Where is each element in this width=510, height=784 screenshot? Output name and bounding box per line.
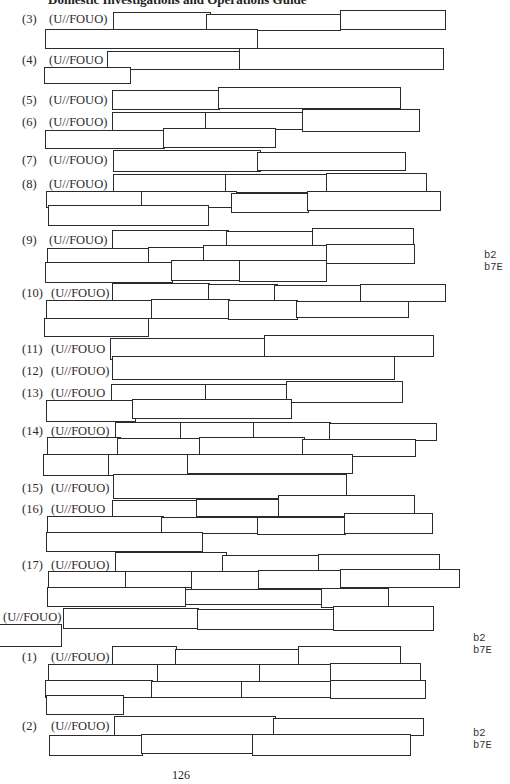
redaction-box [257, 152, 406, 171]
redaction-box [191, 571, 259, 591]
redaction-box [151, 299, 230, 319]
page-number: 126 [172, 768, 190, 783]
redaction-box [151, 681, 243, 698]
classification-marking: (U//FOUO) [49, 93, 107, 108]
item-number: (5) [22, 93, 37, 108]
classification-marking: (U//FOUO) [49, 233, 107, 248]
redaction-box [239, 260, 327, 282]
redaction-box [286, 381, 403, 403]
redaction-box [0, 624, 62, 647]
classification-marking: (U//FOUO) [49, 177, 107, 192]
redaction-box [113, 150, 261, 172]
redaction-box [333, 606, 434, 631]
redaction-box [47, 587, 186, 607]
redaction-box [259, 664, 332, 682]
redaction-box [340, 10, 446, 30]
redaction-box [114, 716, 276, 736]
item-number: (4) [22, 53, 37, 68]
classification-marking: (U//FOUO) [51, 286, 109, 301]
redaction-box [171, 260, 241, 281]
redaction-box [45, 130, 165, 149]
classification-marking: (U//FOUO) [51, 719, 109, 734]
item-number: (9) [22, 233, 37, 248]
item-number: (15) [22, 481, 43, 496]
redaction-box [45, 29, 258, 49]
redaction-box [48, 205, 209, 226]
redaction-box [141, 734, 254, 754]
exemption-code: b2 b7E [473, 727, 492, 751]
item-number: (2) [22, 719, 37, 734]
redaction-box [46, 400, 136, 422]
classification-marking: (U//FOUO [51, 342, 105, 357]
redaction-box [296, 301, 409, 318]
item-number: (11) [22, 342, 42, 357]
redaction-box [46, 695, 124, 715]
classification-marking: (U//FOUO) [49, 115, 107, 130]
exemption-code: b2 b7E [484, 249, 503, 273]
redaction-box [330, 680, 426, 699]
item-number: (1) [22, 650, 37, 665]
redaction-box [340, 569, 460, 588]
redaction-box [63, 608, 199, 629]
item-number: (17) [22, 558, 43, 573]
redaction-box [252, 734, 411, 756]
classification-marking: (U//FOUO) [51, 481, 109, 496]
item-number: (12) [22, 364, 43, 379]
document-header: Domestic Investigations and Operations G… [48, 0, 307, 8]
redaction-box [112, 90, 220, 110]
classification-marking: (U//FOUO) [49, 12, 107, 27]
redaction-box [125, 571, 193, 588]
redaction-box [187, 454, 353, 474]
redaction-box [44, 318, 149, 337]
redaction-box [185, 589, 322, 605]
redaction-box [45, 262, 173, 283]
redaction-box [163, 128, 276, 148]
redaction-box [46, 300, 153, 319]
classification-marking: (U//FOUO [49, 53, 103, 68]
classification-marking: (U//FOUO) [3, 610, 61, 625]
redaction-box [49, 735, 143, 756]
redaction-box [258, 570, 342, 589]
redaction-box [43, 454, 111, 476]
redaction-box [112, 646, 177, 665]
item-number: (8) [22, 177, 37, 192]
classification-marking: (U//FOUO) [51, 364, 109, 379]
redaction-box [228, 300, 298, 320]
exemption-code: b2 b7E [473, 632, 492, 656]
classification-marking: (U//FOUO) [49, 153, 107, 168]
redaction-box [307, 191, 441, 211]
redaction-box [326, 244, 415, 264]
redaction-box [112, 356, 395, 380]
redaction-box [115, 552, 227, 573]
redaction-box [196, 499, 279, 517]
redaction-box [132, 399, 292, 419]
classification-marking: (U//FOUO) [51, 650, 109, 665]
item-number: (6) [22, 115, 37, 130]
item-number: (3) [22, 12, 37, 27]
item-number: (7) [22, 153, 37, 168]
redaction-box [257, 517, 346, 535]
item-number: (16) [22, 502, 43, 517]
redaction-box [321, 588, 389, 608]
redaction-box [302, 109, 420, 132]
redaction-box [264, 335, 434, 357]
redaction-box [344, 513, 433, 534]
item-number: (13) [22, 386, 43, 401]
redaction-box [197, 609, 334, 630]
redaction-box [108, 454, 189, 476]
redaction-box [360, 284, 446, 302]
item-number: (10) [22, 286, 43, 301]
redaction-box [175, 649, 300, 665]
redaction-box [218, 87, 401, 109]
classification-marking: (U//FOUO [51, 386, 105, 401]
classification-marking: (U//FOUO [51, 502, 105, 517]
redaction-box [44, 67, 131, 84]
redaction-box [241, 681, 331, 698]
redaction-box [46, 532, 203, 552]
redaction-box [231, 193, 309, 213]
item-number: (14) [22, 424, 43, 439]
redaction-box [326, 173, 427, 193]
redaction-box [239, 48, 444, 70]
